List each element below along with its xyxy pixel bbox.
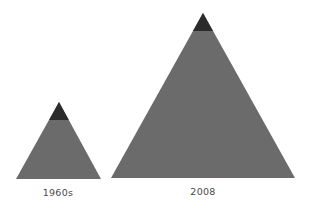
pyramid-1960s (16, 102, 101, 179)
pyramid-2008-body (111, 13, 295, 178)
pyramid-2008-cap (193, 13, 213, 31)
pyramid-1960s-cap (49, 102, 69, 120)
label-2008: 2008 (173, 186, 233, 197)
label-1960s: 1960s (28, 187, 88, 198)
pyramid-comparison-diagram (0, 0, 311, 210)
pyramid-2008 (111, 13, 295, 178)
